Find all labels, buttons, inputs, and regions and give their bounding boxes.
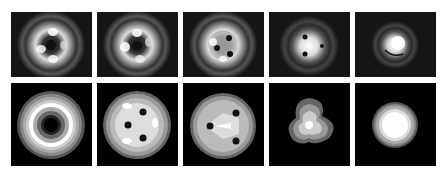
measured-panel-5	[355, 12, 436, 77]
simulated-panel-3	[183, 83, 264, 166]
ring-pattern-image	[11, 12, 92, 77]
simulated-panel-1	[11, 83, 92, 166]
donut-contour-image	[11, 83, 92, 166]
vortex-contour-image	[97, 83, 178, 166]
measured-panel-1	[11, 12, 92, 77]
measured-panel-2	[97, 12, 178, 77]
measured-panel-4	[269, 12, 350, 77]
ring-pattern-image	[269, 12, 350, 77]
ring-pattern-image	[183, 12, 264, 77]
simulated-panel-2	[97, 83, 178, 166]
simulated-panel-5	[355, 83, 436, 166]
ring-pattern-image	[355, 12, 436, 77]
vortex-contour-image	[183, 83, 264, 166]
trefoil-contour-image	[269, 83, 350, 166]
gaussian-spot-image	[355, 83, 436, 166]
measured-panel-3	[183, 12, 264, 77]
ring-pattern-image	[97, 12, 178, 77]
simulated-panel-4	[269, 83, 350, 166]
